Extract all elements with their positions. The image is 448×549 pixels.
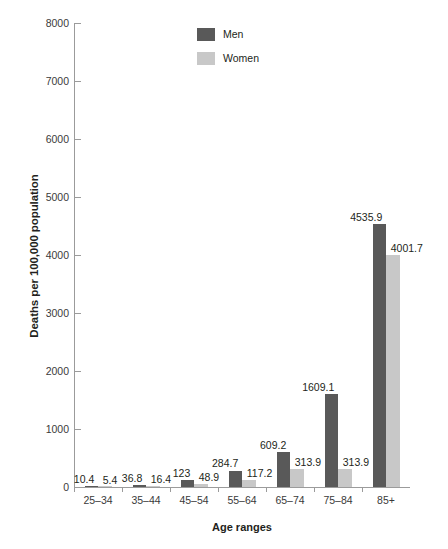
value-label-women: 117.2 xyxy=(247,468,299,479)
value-label-men: 10.4 xyxy=(42,474,94,485)
legend-entry-women: Women xyxy=(197,46,259,70)
bar-men xyxy=(85,486,99,487)
y-tick: 0 xyxy=(0,487,81,488)
x-tick-mark xyxy=(122,487,123,492)
bar-women xyxy=(98,486,112,487)
bars-layer xyxy=(0,0,448,487)
value-label-men: 123 xyxy=(138,468,190,479)
bar-women xyxy=(338,469,352,487)
bar-women xyxy=(146,486,160,487)
value-label-women: 313.9 xyxy=(343,457,395,468)
x-tick-mark xyxy=(362,487,363,492)
bar-men xyxy=(373,224,387,487)
x-axis-line xyxy=(74,487,410,488)
legend-label-women: Women xyxy=(223,52,259,64)
x-tick-mark xyxy=(266,487,267,492)
value-label-men: 609.2 xyxy=(234,440,286,451)
x-tick-label: 85+ xyxy=(356,494,416,506)
x-tick-mark xyxy=(74,487,75,492)
value-label-women: 48.9 xyxy=(199,472,251,483)
value-label-men: 284.7 xyxy=(186,458,238,469)
x-tick-mark xyxy=(218,487,219,492)
value-label-men: 1609.1 xyxy=(282,382,334,393)
x-tick-mark xyxy=(170,487,171,492)
legend-entry-men: Men xyxy=(197,22,259,46)
bar-women xyxy=(386,255,400,487)
value-label-women: 313.9 xyxy=(295,457,347,468)
bar-men xyxy=(133,485,147,487)
x-axis-title: Age ranges xyxy=(74,521,410,533)
legend-swatch-women xyxy=(197,52,215,65)
bar-men xyxy=(325,394,339,487)
legend-swatch-men xyxy=(197,28,215,41)
value-label-women: 4001.7 xyxy=(391,243,443,254)
bar-chart: Deaths per 100,000 population Age ranges… xyxy=(0,0,448,549)
value-label-men: 36.8 xyxy=(90,473,142,484)
chart-legend: Men Women xyxy=(197,22,259,70)
x-tick-mark xyxy=(314,487,315,492)
value-label-men: 4535.9 xyxy=(330,212,382,223)
legend-label-men: Men xyxy=(223,28,243,40)
bar-women xyxy=(194,484,208,487)
